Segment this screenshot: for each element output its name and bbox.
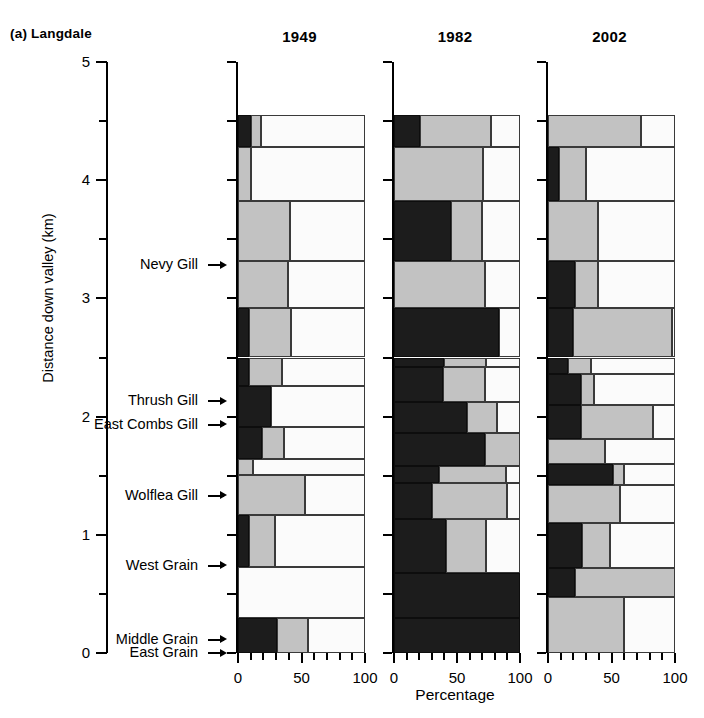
panel-title-1949: 1949 (236, 28, 363, 45)
bar-segment-gray (238, 147, 251, 201)
x-tick-minor (339, 653, 341, 660)
y-tick-minor (99, 475, 107, 477)
bar-segment-light (499, 308, 520, 358)
bar-segment-gray (394, 261, 485, 308)
x-tick-minor (585, 653, 587, 660)
bar-segment-dark (394, 115, 420, 147)
y-tick-minor (99, 120, 107, 122)
x-tick-minor (443, 653, 445, 660)
y-tick-minor (99, 593, 107, 595)
bar-row (394, 519, 520, 572)
panel-y-tick (383, 534, 392, 536)
x-tick-minor (661, 653, 663, 660)
bar-segment-light (624, 597, 675, 653)
bar-segment-dark (548, 568, 575, 598)
bar-segment-dark (548, 261, 575, 308)
x-tick-label: 100 (655, 670, 695, 685)
tributary-arrow-icon (208, 648, 228, 658)
bar-segment-light (598, 261, 675, 308)
y-axis-title: Distance down valley (km) (40, 188, 56, 408)
x-tick-minor (250, 653, 252, 660)
bar-segment-light (308, 618, 365, 653)
bar-segment-gray (443, 367, 485, 402)
panel-y-tick (537, 652, 546, 654)
x-tick-minor (623, 653, 625, 660)
panel-title-2002: 2002 (546, 28, 673, 45)
bar-row (238, 147, 365, 201)
bar-segment-dark (548, 405, 581, 439)
panel-y-tick (537, 179, 546, 181)
bar-row (238, 358, 365, 386)
tributary-label-west-grain: West Grain (0, 558, 198, 573)
bar-row (394, 618, 520, 653)
bar-segment-dark (394, 433, 485, 466)
bar-segment-light (291, 308, 365, 358)
bar-row (238, 308, 365, 358)
bar-row (394, 201, 520, 260)
bar-segment-light (598, 201, 675, 260)
panel-y-tick (383, 238, 392, 240)
bar-row (238, 618, 365, 653)
bar-segment-gray (613, 464, 624, 485)
panel-y-tick (227, 593, 236, 595)
bar-row (238, 261, 365, 308)
bar-segment-dark (394, 402, 467, 433)
bar-segment-gray (238, 261, 288, 308)
bar-segment-gray (548, 439, 605, 464)
bar-row (394, 402, 520, 433)
y-tick-major (96, 61, 107, 63)
bar-segment-light (605, 439, 675, 464)
x-tick-major (456, 653, 458, 663)
bar-segment-light (653, 405, 675, 439)
bar-segment-dark (238, 308, 249, 358)
x-tick-minor (494, 653, 496, 660)
bar-segment-gray (485, 433, 520, 466)
bar-row (238, 386, 365, 427)
x-tick-major (547, 653, 549, 663)
bar-segment-gray (568, 358, 591, 375)
bar-segment-gray (581, 374, 594, 405)
bar-segment-gray (548, 201, 598, 260)
bar-segment-light (485, 261, 520, 308)
bar-segment-gray (444, 358, 486, 367)
bar-segment-dark (548, 464, 613, 485)
panel-y-tick (537, 61, 546, 63)
bar-row (238, 475, 365, 515)
x-tick-minor (262, 653, 264, 660)
bar-row (394, 261, 520, 308)
bar-segment-gray (249, 515, 274, 567)
bar-segment-light (284, 427, 365, 459)
y-tick-major (96, 179, 107, 181)
bar-row (394, 483, 520, 520)
bar-segment-light (586, 147, 675, 201)
bar-segment-light (672, 308, 675, 358)
x-tick-label: 0 (374, 670, 414, 685)
bar-segment-gray (573, 308, 672, 358)
panel-y-tick (537, 593, 546, 595)
bar-segment-light (486, 519, 520, 572)
bar-segment-gray (439, 466, 506, 483)
panel-y-tick (383, 61, 392, 63)
bar-segment-dark (238, 115, 251, 147)
panel-y-tick (537, 238, 546, 240)
bar-segment-gray (277, 618, 307, 653)
panel-y-tick (227, 61, 236, 63)
bar-segment-gray (446, 519, 486, 572)
bar-row (548, 374, 675, 405)
bar-row (394, 358, 520, 367)
bar-segment-dark (238, 427, 262, 459)
tributary-label-thrush-gill: Thrush Gill (0, 393, 198, 408)
panel-y-tick (537, 475, 546, 477)
bar-row (238, 459, 365, 474)
panel-1982: 050100 (392, 62, 520, 653)
bar-row (548, 464, 675, 485)
bar-segment-gray (582, 523, 610, 568)
bar-segment-light (620, 485, 675, 523)
bar-segment-light (253, 459, 365, 474)
bar-segment-gray (262, 427, 284, 459)
panel-y-tick (227, 534, 236, 536)
bar-segment-light (497, 402, 520, 433)
x-tick-label: 0 (528, 670, 568, 685)
bar-row (238, 515, 365, 567)
bar-segment-light (290, 201, 365, 260)
